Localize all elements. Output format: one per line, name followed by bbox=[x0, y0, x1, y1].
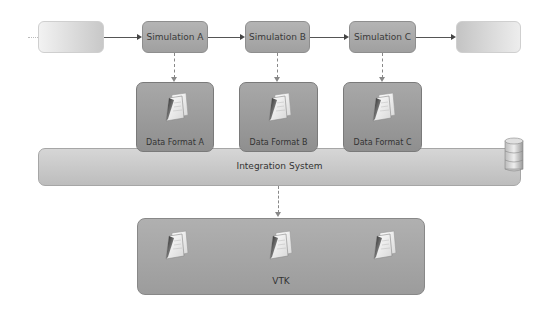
downstream-stage-box bbox=[456, 21, 521, 53]
integration-system-label: Integration System bbox=[39, 161, 520, 171]
simulation-a-label: Simulation A bbox=[147, 32, 204, 42]
dashed-connector bbox=[174, 53, 175, 78]
document-icon bbox=[264, 229, 296, 261]
simulation-b-label: Simulation B bbox=[249, 32, 306, 42]
document-icon bbox=[367, 91, 399, 123]
lead-in-connector bbox=[28, 37, 38, 38]
data-format-c-label: Data Format C bbox=[344, 138, 421, 147]
data-format-b-box[interactable]: Data Format B bbox=[239, 82, 318, 152]
document-icon bbox=[263, 91, 295, 123]
simulation-c-box[interactable]: Simulation C bbox=[349, 21, 416, 53]
dashed-connector bbox=[382, 53, 383, 78]
dashed-connector bbox=[277, 53, 278, 78]
flow-connector bbox=[310, 37, 344, 38]
document-icon bbox=[160, 91, 192, 123]
dashed-connector bbox=[278, 186, 279, 213]
simulation-c-label: Simulation C bbox=[354, 32, 411, 42]
database-icon bbox=[504, 137, 524, 173]
integration-system-bar[interactable]: Integration System bbox=[38, 148, 521, 186]
vtk-box[interactable]: VTK bbox=[137, 218, 425, 295]
flow-connector bbox=[208, 37, 240, 38]
data-format-b-label: Data Format B bbox=[240, 138, 317, 147]
flow-connector bbox=[416, 37, 451, 38]
document-icon bbox=[368, 229, 400, 261]
document-icon bbox=[160, 229, 192, 261]
upstream-stage-box bbox=[38, 21, 104, 53]
data-format-a-box[interactable]: Data Format A bbox=[136, 82, 214, 152]
simulation-a-box[interactable]: Simulation A bbox=[142, 21, 208, 53]
vtk-label: VTK bbox=[138, 276, 424, 286]
arrow-down-icon bbox=[275, 212, 281, 217]
data-format-c-box[interactable]: Data Format C bbox=[343, 82, 422, 152]
data-format-a-label: Data Format A bbox=[137, 138, 213, 147]
simulation-b-box[interactable]: Simulation B bbox=[245, 21, 310, 53]
flow-connector bbox=[104, 37, 137, 38]
